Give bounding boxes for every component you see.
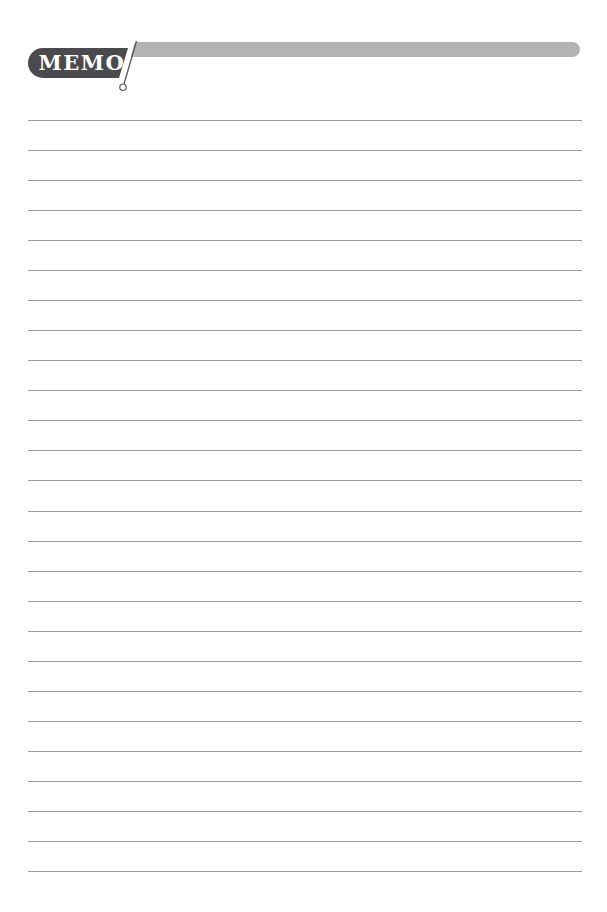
ruled-line <box>28 841 582 842</box>
ruled-line <box>28 571 582 572</box>
ruled-line <box>28 811 582 812</box>
ruled-line <box>28 360 582 361</box>
ruled-line <box>28 330 582 331</box>
ruled-line <box>28 150 582 151</box>
ruled-line <box>28 210 582 211</box>
ruled-line <box>28 180 582 181</box>
ruled-line <box>28 450 582 451</box>
ruled-line <box>28 511 582 512</box>
ruled-line <box>28 601 582 602</box>
ruled-line <box>28 781 582 782</box>
memo-title: MEMO <box>39 50 126 75</box>
memo-page: MEMO <box>0 0 607 912</box>
memo-header: MEMO <box>0 0 607 100</box>
ruled-line <box>28 691 582 692</box>
ruled-line <box>28 300 582 301</box>
ruled-line <box>28 661 582 662</box>
ruled-line <box>28 120 582 121</box>
ruled-line <box>28 420 582 421</box>
header-bar <box>131 42 580 57</box>
ruled-line <box>28 751 582 752</box>
slash-circle <box>120 84 126 90</box>
slash-line <box>124 41 137 84</box>
ruled-line <box>28 631 582 632</box>
ruled-line <box>28 871 582 872</box>
ruled-line <box>28 240 582 241</box>
ruled-line <box>28 541 582 542</box>
ruled-line <box>28 270 582 271</box>
ruled-line <box>28 390 582 391</box>
ruled-line <box>28 721 582 722</box>
ruled-line <box>28 480 582 481</box>
